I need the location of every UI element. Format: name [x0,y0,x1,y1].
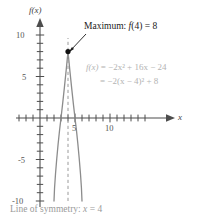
maximum-point-marker [65,49,70,54]
caption-prefix: Line of symmetry: [10,204,83,214]
equation-line-1: f(x) = −2x² + 16x − 24 [86,63,167,72]
x-tick-label-5: 5 [72,124,76,133]
y-axis-arrowhead [36,18,43,27]
equation-line-1-lhs: f(x) [86,62,99,72]
x-tick-label-10: 10 [105,124,114,133]
y-tick-label-neg5: -5 [18,156,25,165]
caption-suffix: = 4 [87,204,102,214]
x-axis-label: x [178,113,182,122]
line-of-symmetry-caption: Line of symmetry: x = 4 [10,205,102,215]
y-tick-label-5: 5 [22,73,26,82]
quadratic-graph-figure: f(x) x 10 5 -5 -10 5 10 Maximum: f(4) = … [0,0,203,219]
maximum-callout-label: Maximum: f(4) = 8 [84,22,157,32]
equation-line-1-rhs: = −2x² + 16x − 24 [99,62,167,72]
x-axis-arrowhead [166,114,175,121]
y-axis-label: f(x) [29,6,42,15]
equation-line-2: = −2(x − 4)² + 8 [100,77,158,86]
maximum-callout-prefix: Maximum: [84,21,129,31]
graph-canvas [0,0,203,219]
maximum-callout-value: (4) = 8 [131,21,157,31]
y-tick-label-10: 10 [16,31,25,40]
